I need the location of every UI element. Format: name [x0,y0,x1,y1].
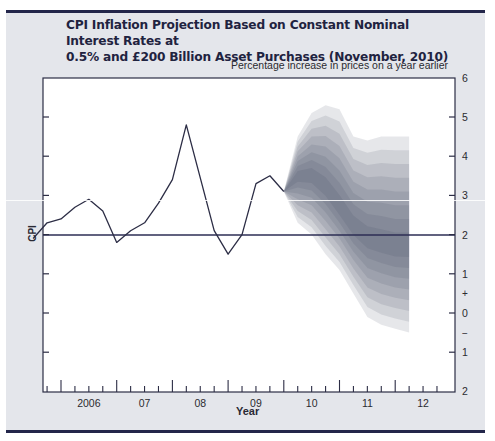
scan-artifact-line [0,200,495,201]
y-tick-plus: + [462,288,468,299]
y-tick-label: 2 [462,229,468,241]
y-tick-label: 0 [462,307,468,319]
y-axis-label: CPI [27,225,38,242]
x-tick-label: 08 [194,397,206,409]
x-tick-label: 07 [139,397,151,409]
y-tick-label: 1 [462,346,468,358]
y-tick-label: 6 [462,72,468,84]
y-tick-label: 5 [462,111,468,123]
y-tick-label: 1 [462,268,468,280]
x-axis-label: Year [236,405,259,417]
x-tick-label: 12 [417,397,429,409]
x-tick-label: 10 [306,397,318,409]
y-tick-minus: − [462,328,468,339]
y-tick-label: 2 [462,385,468,397]
chart-plot: 654321012+− 2006070809101112 [0,0,495,441]
x-tick-label: 2006 [77,397,101,409]
y-tick-label: 4 [462,150,468,162]
x-tick-label: 11 [362,397,373,409]
